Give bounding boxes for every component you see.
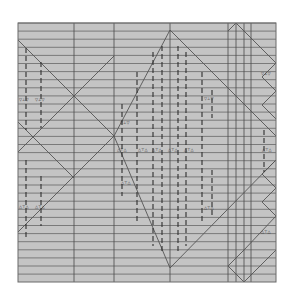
crease-pattern-diagram: ▽⊥▽▽⊥▽▽⊥▽▽⊥▽▽⊥▽△⊤△△⊤△△⊤△△⊤△△⊤△△⊤△△⊤△△⊤△△…: [0, 0, 290, 297]
fold-arrow-label: △⊤△: [204, 205, 215, 210]
fold-arrow-label: △⊤△: [168, 147, 179, 152]
fold-arrow-label: △⊤△: [138, 147, 149, 152]
fold-arrow-label: ▽⊥▽: [261, 71, 272, 76]
fold-arrow-label: ▽⊥▽: [35, 97, 46, 102]
fold-arrow-label: △⊤△: [261, 229, 272, 234]
fold-arrow-label: △⊤△: [121, 180, 132, 185]
fold-arrow-label: ▽⊥▽: [19, 97, 30, 102]
fold-arrow-label: △⊤△: [19, 204, 30, 209]
fold-arrow-label: △⊤△: [262, 147, 273, 152]
fold-arrow-label: △⊤△: [184, 147, 195, 152]
fold-arrow-label: △⊤△: [35, 204, 46, 209]
fold-arrow-label: △⊤△: [117, 147, 128, 152]
fold-arrow-label: ▽⊥▽: [204, 96, 215, 101]
fold-arrow-label: ▽⊥▽: [120, 120, 131, 125]
fold-arrow-label: △⊤△: [152, 147, 163, 152]
